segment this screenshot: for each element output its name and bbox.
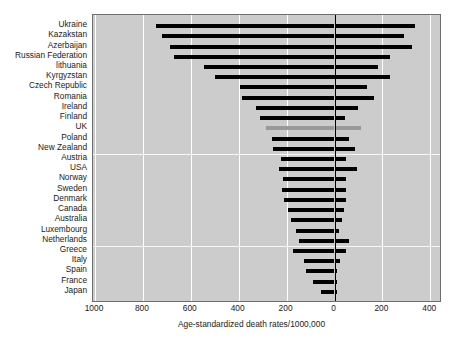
bar-men-finland [260, 116, 335, 120]
horizontal-gridline-0 [93, 154, 440, 155]
x-axis-title: Age-standardized death rates/1000,000 [0, 319, 453, 329]
y-axis-label-kyrgyzstan: Kyrgyzstan [46, 71, 87, 80]
y-axis-label-czech-republic: Czech Republic [29, 81, 87, 90]
bar-men-luxembourg [296, 229, 335, 233]
bar-men-japan [321, 290, 334, 294]
x-axis-title-text: Age-standardized death rates/1000,000 [178, 319, 325, 329]
bar-women-australia [335, 218, 342, 222]
bar-men-france [313, 280, 335, 284]
bar-men-italy [304, 259, 335, 263]
bar-men-kyrgyzstan [215, 75, 335, 79]
y-axis-label-spain: Spain [66, 265, 87, 274]
bar-men-austria [281, 157, 334, 161]
plot-area: Men Women [92, 14, 441, 302]
y-axis-label-canada: Canada [58, 204, 87, 213]
bar-women-kazakstan [335, 34, 404, 38]
bar-men-azerbaijan [170, 45, 334, 49]
y-axis-label-italy: Italy [72, 255, 87, 264]
x-tick-label-2: 600 [183, 303, 197, 313]
x-tick-label-4: 200 [279, 303, 293, 313]
x-tick-label-3: 400 [231, 303, 245, 313]
y-axis-label-uk: UK [75, 122, 87, 131]
bar-men-norway [283, 177, 334, 181]
bar-women-usa [335, 167, 358, 171]
bar-men-russian-federation [174, 55, 335, 59]
y-axis-label-japan: Japan [64, 286, 87, 295]
y-axis-label-russian-federation: Russian Federation [15, 51, 87, 60]
horizontal-gridline-1 [93, 246, 440, 247]
bar-men-greece [293, 249, 334, 253]
death-rate-diverging-bar-chart: UkraineKazakstanAzerbaijanRussian Federa… [0, 0, 453, 348]
bar-women-uk [335, 126, 361, 130]
bar-women-ireland [335, 106, 359, 110]
y-axis-label-australia: Australia [55, 214, 87, 223]
y-axis-label-ireland: Ireland [62, 102, 87, 111]
bar-men-kazakstan [162, 34, 334, 38]
bar-women-greece [335, 249, 346, 253]
y-axis-label-romania: Romania [54, 92, 87, 101]
bar-women-denmark [335, 198, 347, 202]
bar-women-poland [335, 137, 349, 141]
bar-men-sweden [282, 188, 334, 192]
y-axis-label-kazakstan: Kazakstan [48, 30, 87, 39]
bar-women-new-zealand [335, 147, 355, 151]
bar-women-czech-republic [335, 85, 367, 89]
bar-women-netherlands [335, 239, 350, 243]
y-axis-label-lithuania: lithuania [56, 61, 87, 70]
y-axis-label-finland: Finland [60, 112, 87, 121]
gridline-400-7 [430, 15, 431, 301]
bar-men-denmark [284, 198, 335, 202]
bar-men-poland [272, 137, 334, 141]
bar-women-finland [335, 116, 346, 120]
bar-women-azerbaijan [335, 45, 413, 49]
bar-men-romania [242, 96, 334, 100]
y-axis-label-new-zealand: New Zealand [38, 143, 87, 152]
bar-women-lithuania [335, 65, 379, 69]
y-axis-label-denmark: Denmark [53, 194, 87, 203]
x-tick-label-7: 400 [422, 303, 436, 313]
y-axis-label-usa: USA [70, 163, 87, 172]
y-axis-label-sweden: Sweden [57, 184, 87, 193]
bar-women-russian-federation [335, 55, 390, 59]
y-axis-label-austria: Austria [61, 153, 87, 162]
gridline-800-1 [143, 15, 144, 301]
bar-women-sweden [335, 188, 346, 192]
gridline-0-5 [335, 15, 336, 301]
bar-men-uk [266, 126, 335, 130]
bar-men-netherlands [299, 239, 335, 243]
y-axis-label-azerbaijan: Azerbaijan [48, 41, 87, 50]
y-axis-label-ukraine: Ukraine [58, 20, 87, 29]
bar-men-canada [288, 208, 335, 212]
x-tick-label-6: 200 [374, 303, 388, 313]
gridline-1000-0 [95, 15, 96, 301]
bar-women-romania [335, 96, 375, 100]
bar-women-ukraine [335, 24, 415, 28]
bar-men-ukraine [156, 24, 334, 28]
bar-men-spain [306, 269, 335, 273]
bar-men-australia [291, 218, 335, 222]
bar-women-austria [335, 157, 347, 161]
value-axis-tick-labels: 10008006004002000200400 [0, 303, 453, 317]
y-axis-label-greece: Greece [60, 245, 87, 254]
y-axis-label-france: France [61, 276, 87, 285]
x-tick-label-0: 1000 [85, 303, 104, 313]
bar-women-canada [335, 208, 345, 212]
bar-men-lithuania [204, 65, 335, 69]
bar-men-ireland [256, 106, 334, 110]
bar-men-czech-republic [240, 85, 335, 89]
category-axis-labels: UkraineKazakstanAzerbaijanRussian Federa… [0, 14, 90, 302]
bar-women-kyrgyzstan [335, 75, 390, 79]
x-tick-label-5: 0 [331, 303, 336, 313]
bar-men-new-zealand [273, 147, 335, 151]
bar-men-usa [279, 167, 334, 171]
y-axis-label-norway: Norway [59, 173, 87, 182]
y-axis-label-poland: Poland [61, 133, 87, 142]
y-axis-label-luxembourg: Luxembourg [41, 225, 87, 234]
x-tick-label-1: 800 [135, 303, 149, 313]
bar-women-norway [335, 177, 347, 181]
y-axis-label-netherlands: Netherlands [42, 235, 87, 244]
